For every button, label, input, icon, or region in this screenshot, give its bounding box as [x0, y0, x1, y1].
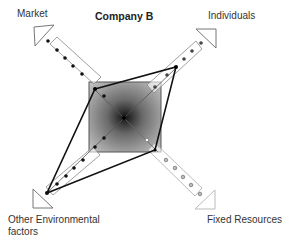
diagram-title: Company B — [95, 10, 153, 22]
label-market: Market — [17, 8, 48, 20]
label-other-environmental-line2: factors — [8, 226, 38, 238]
center-point — [122, 116, 126, 120]
label-individuals: Individuals — [208, 10, 255, 22]
arrow-fixed-resources — [124, 118, 215, 209]
label-fixed-resources: Fixed Resources — [207, 214, 282, 226]
label-other-environmental-line1: Other Environmental — [8, 214, 100, 226]
arrow-individuals — [124, 29, 216, 118]
radar-diagram — [0, 0, 298, 242]
arrow-other-environmental-factors — [33, 118, 124, 208]
